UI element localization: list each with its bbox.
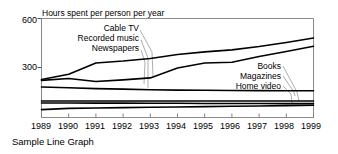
line-chart: Hours spent per person per year 600 300 … [0,0,338,154]
series-line-newspapers [42,87,314,91]
x-axis-ticks [42,114,314,118]
plot-area [0,0,338,154]
chart-caption: Sample Line Graph [12,136,94,148]
series-line-recorded-music [42,46,314,81]
y-axis-ticks [38,19,42,68]
leader-lines [140,30,299,103]
series-line-magazines [42,103,314,104]
series-line-home-video [42,105,314,109]
data-series-group [42,38,314,110]
series-line-cable-tv [42,38,314,80]
